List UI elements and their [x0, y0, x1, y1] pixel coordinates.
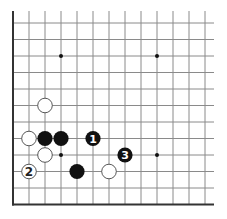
black-stone-move-3: 3 [117, 147, 132, 162]
move-number-label: 3 [121, 149, 129, 162]
white-stone-icon [102, 164, 117, 179]
white-stone [102, 164, 117, 179]
black-stone-icon [69, 164, 84, 179]
black-stone-icon [37, 131, 52, 146]
white-stone [38, 148, 53, 163]
white-stone-icon [38, 98, 53, 113]
white-stone-move-2: 2 [22, 164, 37, 179]
white-stone [22, 131, 37, 146]
black-stone [53, 131, 68, 146]
black-stone-icon [53, 131, 68, 146]
star-point [59, 153, 63, 157]
black-stone [37, 131, 52, 146]
move-number-label: 2 [25, 165, 33, 179]
white-stone-icon [22, 131, 37, 146]
star-point [155, 153, 159, 157]
black-stone-move-1: 1 [85, 131, 100, 146]
black-stone [69, 164, 84, 179]
go-board: 132 [0, 0, 227, 219]
star-point [155, 54, 159, 58]
white-stone-icon [38, 148, 53, 163]
star-point [59, 54, 63, 58]
white-stone [38, 98, 53, 113]
move-number-label: 1 [89, 133, 97, 146]
